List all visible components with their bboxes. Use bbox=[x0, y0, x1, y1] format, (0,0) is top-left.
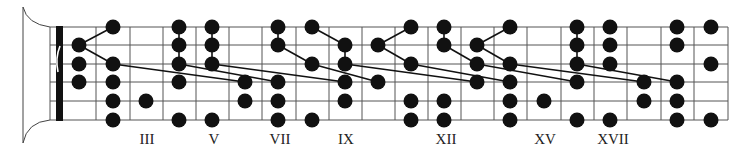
note-dot bbox=[704, 113, 719, 128]
note-dot bbox=[670, 94, 685, 109]
fret-label: XII bbox=[436, 131, 457, 148]
note-dot bbox=[172, 38, 187, 53]
note-dot bbox=[404, 57, 419, 72]
note-dot bbox=[404, 20, 419, 35]
note-dot bbox=[603, 20, 618, 35]
note-dot bbox=[106, 113, 121, 128]
note-dot bbox=[205, 113, 220, 128]
note-dot bbox=[537, 94, 552, 109]
note-dot bbox=[637, 75, 652, 90]
note-dot bbox=[670, 38, 685, 53]
note-dot bbox=[437, 113, 452, 128]
note-dot bbox=[503, 75, 518, 90]
note-dot bbox=[404, 113, 419, 128]
note-dot bbox=[205, 38, 220, 53]
nut bbox=[56, 26, 63, 121]
note-dot bbox=[670, 75, 685, 90]
note-dot bbox=[305, 57, 320, 72]
note-dot bbox=[106, 20, 121, 35]
note-dot bbox=[271, 38, 286, 53]
note-dot bbox=[238, 94, 253, 109]
note-dot bbox=[271, 94, 286, 109]
note-dot bbox=[470, 57, 485, 72]
note-dot bbox=[305, 113, 320, 128]
note-dot bbox=[338, 38, 353, 53]
note-dot bbox=[205, 57, 220, 72]
note-dot bbox=[271, 113, 286, 128]
fretboard-diagram bbox=[0, 0, 751, 165]
note-dot bbox=[570, 20, 585, 35]
note-dot bbox=[404, 94, 419, 109]
note-dot bbox=[139, 94, 154, 109]
note-dot bbox=[437, 20, 452, 35]
note-dot bbox=[437, 94, 452, 109]
note-dot bbox=[238, 75, 253, 90]
note-dot bbox=[670, 20, 685, 35]
note-dot bbox=[570, 57, 585, 72]
fret-label: VII bbox=[270, 131, 291, 148]
note-dot bbox=[172, 20, 187, 35]
fret-label: III bbox=[140, 131, 155, 148]
note-dot bbox=[338, 94, 353, 109]
note-dot bbox=[670, 113, 685, 128]
note-dot bbox=[371, 38, 386, 53]
note-dot bbox=[72, 57, 87, 72]
note-dot bbox=[205, 20, 220, 35]
fret-label: IX bbox=[338, 131, 354, 148]
note-dot bbox=[437, 38, 452, 53]
note-dot bbox=[106, 57, 121, 72]
note-dot bbox=[570, 38, 585, 53]
note-dot bbox=[470, 75, 485, 90]
note-dot bbox=[72, 38, 87, 53]
note-dot bbox=[503, 113, 518, 128]
headstock-outline bbox=[23, 7, 50, 143]
note-dot bbox=[371, 75, 386, 90]
note-dot bbox=[603, 38, 618, 53]
note-dot bbox=[570, 75, 585, 90]
note-dot bbox=[271, 75, 286, 90]
note-dot bbox=[570, 113, 585, 128]
note-dot bbox=[106, 94, 121, 109]
note-dot bbox=[72, 75, 87, 90]
note-dot bbox=[338, 57, 353, 72]
note-dot bbox=[503, 20, 518, 35]
note-dot bbox=[503, 94, 518, 109]
note-dot bbox=[603, 113, 618, 128]
note-dot bbox=[106, 75, 121, 90]
note-dot bbox=[305, 20, 320, 35]
note-dot bbox=[172, 113, 187, 128]
note-dot bbox=[172, 57, 187, 72]
note-dot bbox=[503, 57, 518, 72]
note-dot bbox=[338, 75, 353, 90]
connection-lines bbox=[79, 27, 677, 82]
note-dot bbox=[637, 94, 652, 109]
note-dot bbox=[704, 20, 719, 35]
fret-label: XV bbox=[534, 131, 556, 148]
fret-label: V bbox=[209, 131, 220, 148]
note-dot bbox=[271, 20, 286, 35]
note-dot bbox=[603, 57, 618, 72]
note-dot bbox=[172, 75, 187, 90]
note-dot bbox=[470, 38, 485, 53]
fret-label: XVII bbox=[597, 131, 629, 148]
note-dot bbox=[704, 57, 719, 72]
